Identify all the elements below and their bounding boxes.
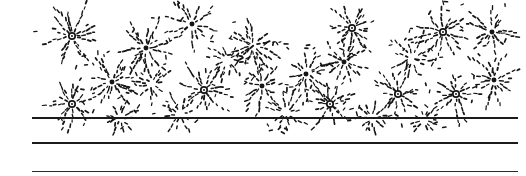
starburst-mark (306, 84, 359, 130)
starburst-mark (409, 1, 468, 66)
starburst-hub-core (442, 31, 444, 33)
starburst-hub-core (455, 93, 457, 95)
starburst-hub (342, 60, 347, 65)
starburst-mark (165, 1, 217, 52)
starburst-mark (34, 1, 96, 69)
starburst-hub-core (71, 35, 73, 37)
starburst-mark (118, 17, 177, 76)
starburst-hub-core (397, 93, 399, 95)
figure-canvas (0, 0, 526, 176)
starburst-mark (42, 78, 100, 133)
starburst-hub (144, 46, 149, 51)
starburst-hub (304, 72, 309, 77)
starburst-mark (460, 4, 520, 55)
starburst-mark (468, 54, 520, 110)
lower-rule (32, 171, 518, 172)
upper-rule (32, 117, 518, 119)
starburst-mark (228, 18, 288, 80)
starburst-hub-core (71, 103, 73, 105)
starburst-hub (110, 80, 115, 85)
starburst-mark (318, 39, 368, 88)
starburst-hub (260, 84, 265, 89)
starburst-mark (330, 7, 374, 60)
starburst-hub (190, 22, 195, 27)
starburst-mark (163, 92, 197, 132)
starburst-hub-core (203, 89, 205, 91)
starburst-hub (492, 78, 497, 83)
starburst-hub (490, 30, 495, 35)
starburst-hub-core (329, 103, 331, 105)
starburst-hub-core (351, 27, 353, 29)
starburst-mark (180, 62, 233, 111)
starburst-field (0, 0, 526, 176)
middle-rule (32, 142, 518, 144)
